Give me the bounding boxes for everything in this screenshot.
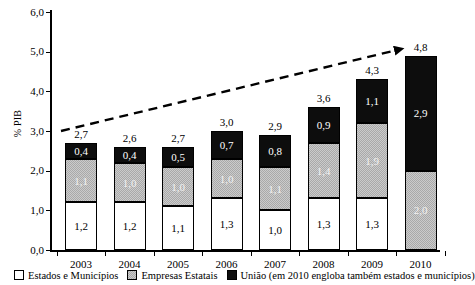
bar-segment-value-label: 1,0 [115,177,145,188]
bar-group: 1,31,91,1 [356,0,388,285]
x-tick-mark [251,251,252,256]
legend-swatch-grey [127,270,137,280]
bar-segment: 1,9 [356,123,388,198]
bar-segment: 1,1 [259,167,291,211]
x-tick-mark [202,251,203,256]
x-tick-mark [445,251,446,256]
legend-label: Empresas Estatais [141,270,217,281]
bar-segment: 1,0 [259,210,291,250]
bar-group: 1,31,00,7 [211,0,243,285]
bar-segment: 1,3 [356,198,388,250]
y-tick-mark [46,12,51,13]
bar-segment-value-label: 1,3 [309,219,339,230]
legend-swatch-black [227,270,237,280]
bar-segment-value-label: 0,4 [115,149,145,160]
legend-swatch-white [14,270,24,280]
bar-group: 1,31,40,9 [308,0,340,285]
bar-segment-value-label: 1,1 [260,183,290,194]
bar-segment-value-label: 2,9 [406,108,436,119]
bar-segment: 1,1 [65,159,97,203]
bar-group: 1,11,00,5 [162,0,194,285]
bar-segment: 0,8 [259,135,291,167]
bar-segment: 0,5 [162,147,194,167]
bar-group: 1,21,00,4 [114,0,146,285]
bar-segment-value-label: 1,4 [309,165,339,176]
bar-segment-value-label: 1,0 [260,225,290,236]
bar-segment: 1,3 [308,198,340,250]
y-tick-label: 3,0 [16,126,44,137]
y-tick-mark [46,91,51,92]
bar-segment: 0,7 [211,131,243,159]
bar-segment: 2,9 [405,56,437,171]
bar-segment: 1,1 [162,206,194,250]
bar-segment: 1,4 [308,143,340,199]
y-tick-label: 1,0 [16,205,44,216]
bar-segment: 0,9 [308,107,340,143]
bar-group: 1,21,10,4 [65,0,97,285]
y-axis-label: % PIB [12,94,23,154]
y-tick-label: 5,0 [16,46,44,57]
bar-segment: 1,0 [114,163,146,203]
bar-segment-value-label: 2,0 [406,205,436,216]
y-tick-mark [46,250,51,251]
bar-segment: 0,4 [65,143,97,159]
bar-segment: 1,1 [356,79,388,123]
legend-item[interactable]: União (em 2010 engloba também estados e … [227,270,475,281]
bar-segment-value-label: 1,2 [115,221,145,232]
y-tick-label: 6,0 [16,7,44,18]
bar-segment-value-label: 1,2 [66,221,96,232]
x-tick-mark [57,251,58,256]
chart-legend: Estados e MunicípiosEmpresas EstataisUni… [14,268,438,282]
y-tick-label: 0,0 [16,245,44,256]
legend-item[interactable]: Empresas Estatais [127,270,217,281]
bar-segment: 2,0 [405,171,437,250]
legend-label: Estados e Municípios [28,270,118,281]
bar-segment: 1,2 [65,202,97,250]
bar-segment: 1,3 [211,198,243,250]
x-tick-mark [299,251,300,256]
bar-segment-value-label: 1,3 [357,219,387,230]
bar-segment-value-label: 0,9 [309,120,339,131]
y-tick-mark [46,210,51,211]
legend-item[interactable]: Estados e Municípios [14,270,118,281]
bar-segment-value-label: 0,8 [260,145,290,156]
bar-segment-value-label: 1,0 [163,181,193,192]
bar-segment: 1,0 [211,159,243,199]
bar-group: 1,01,10,8 [259,0,291,285]
x-tick-mark [396,251,397,256]
x-tick-mark [348,251,349,256]
y-tick-mark [46,171,51,172]
bar-group: 2,02,9 [405,0,437,285]
bar-segment: 1,2 [114,202,146,250]
bar-segment-value-label: 1,1 [163,223,193,234]
y-tick-label: 4,0 [16,86,44,97]
bar-segment-value-label: 1,1 [357,96,387,107]
bar-segment: 0,4 [114,147,146,163]
bar-segment: 1,0 [162,167,194,207]
bar-segment-value-label: 1,3 [212,219,242,230]
bar-segment-value-label: 0,5 [163,151,193,162]
bar-segment-value-label: 1,9 [357,155,387,166]
bar-segment-value-label: 1,1 [66,175,96,186]
y-tick-mark [46,52,51,53]
bar-segment-value-label: 1,0 [212,173,242,184]
x-tick-mark [154,251,155,256]
legend-label: União (em 2010 engloba também estados e … [241,270,475,281]
bar-segment-value-label: 0,4 [66,145,96,156]
bar-segment-value-label: 0,7 [212,139,242,150]
y-tick-label: 2,0 [16,165,44,176]
x-tick-mark [105,251,106,256]
